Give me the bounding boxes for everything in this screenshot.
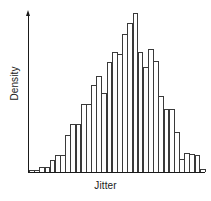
y-axis-label: Density — [9, 54, 20, 114]
x-axis-baseline — [29, 172, 205, 173]
x-axis-label: Jitter — [0, 180, 211, 191]
histogram-figure: Density Jitter — [0, 0, 211, 201]
plot-area — [29, 13, 205, 172]
